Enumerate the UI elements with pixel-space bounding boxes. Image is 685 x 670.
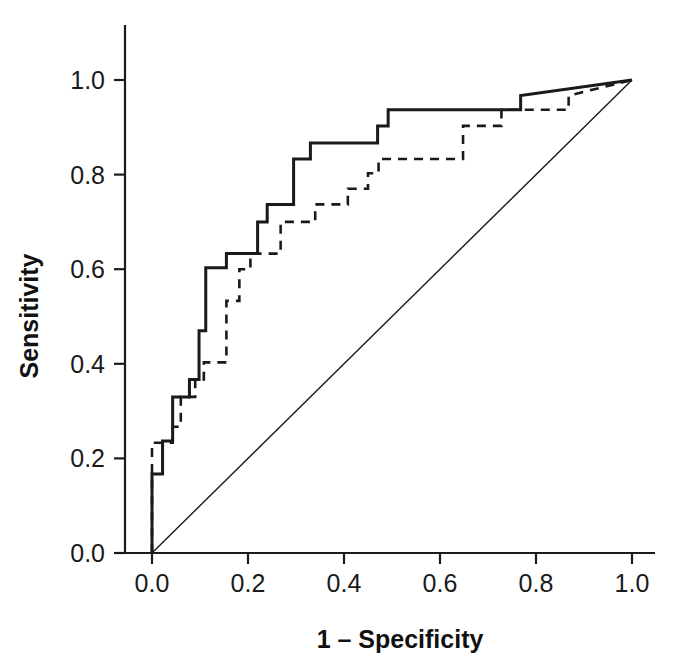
- y-axis-tick-label: 0.6: [70, 255, 105, 283]
- y-axis-tick-label: 0.4: [70, 350, 105, 378]
- x-axis-tick-label: 0.0: [135, 569, 170, 597]
- y-axis-tick-labels: 0.00.20.40.60.81.0: [70, 66, 105, 567]
- x-axis-tick-label: 1.0: [615, 569, 650, 597]
- x-axis-tick-label: 0.2: [231, 569, 266, 597]
- x-axis-ticks: [152, 553, 632, 564]
- y-axis-title: Sensitivity: [15, 253, 43, 378]
- y-axis-tick-label: 0.0: [70, 539, 105, 567]
- y-axis-tick-label: 1.0: [70, 66, 105, 94]
- roc-chart-figure: 0.00.20.40.60.81.0 0.00.20.40.60.81.0 1 …: [0, 0, 685, 670]
- y-axis-tick-label: 0.8: [70, 161, 105, 189]
- y-axis-ticks: [114, 80, 125, 553]
- x-axis-tick-label: 0.4: [327, 569, 362, 597]
- y-axis-tick-label: 0.2: [70, 444, 105, 472]
- x-axis-tick-label: 0.6: [423, 569, 458, 597]
- roc-curve: [152, 80, 632, 553]
- x-axis-tick-labels: 0.00.20.40.60.81.0: [135, 569, 650, 597]
- x-axis-title: 1 – Specificity: [317, 625, 484, 653]
- roc-plot-canvas: 0.00.20.40.60.81.0 0.00.20.40.60.81.0 1 …: [0, 0, 685, 670]
- x-axis-tick-label: 0.8: [519, 569, 554, 597]
- roc-series-group: [152, 80, 632, 553]
